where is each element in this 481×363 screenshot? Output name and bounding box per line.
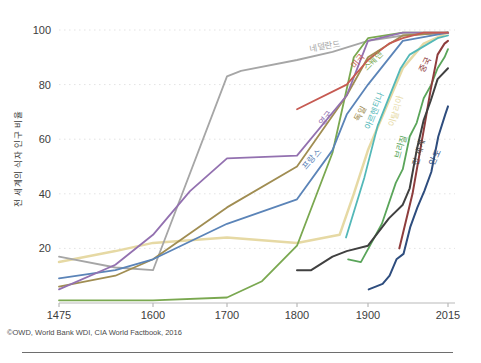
literacy-chart-figure: 20406080100147516001700180019002015이탈리아네… bbox=[0, 0, 481, 363]
y-tick-label-40: 40 bbox=[39, 188, 51, 200]
series-line-india bbox=[369, 106, 448, 289]
x-tick-label-2015: 2015 bbox=[436, 309, 460, 321]
y-tick-label-80: 80 bbox=[39, 79, 51, 91]
literacy-line-chart: 20406080100147516001700180019002015이탈리아네… bbox=[0, 0, 481, 363]
y-tick-label-20: 20 bbox=[39, 242, 51, 254]
y-tick-label-100: 100 bbox=[33, 24, 51, 36]
x-tick-label-1600: 1600 bbox=[141, 309, 165, 321]
series-label-china: 중국 bbox=[417, 55, 433, 74]
series-label-world: 전 세계 bbox=[410, 138, 426, 166]
series-line-sweden bbox=[59, 33, 448, 301]
bottom-divider-rule bbox=[22, 352, 453, 353]
series-line-italy bbox=[59, 33, 448, 262]
series-line-france bbox=[59, 33, 448, 279]
series-label-netherlands: 네덜란드 bbox=[308, 38, 341, 53]
x-tick-label-1800: 1800 bbox=[285, 309, 309, 321]
x-tick-label-1700: 1700 bbox=[215, 309, 239, 321]
y-tick-label-60: 60 bbox=[39, 133, 51, 145]
series-label-uk: 영국 bbox=[316, 109, 334, 128]
y-axis-title: 전 세계의 식자 인구 비율 bbox=[11, 104, 25, 214]
x-tick-label-1475: 1475 bbox=[47, 309, 71, 321]
source-note: ©OWD, World Bank WDI, CIA World Factbook… bbox=[7, 328, 182, 337]
x-tick-label-1900: 1900 bbox=[356, 309, 380, 321]
series-label-india: 인도 bbox=[427, 148, 443, 167]
series-line-netherlands bbox=[59, 33, 448, 271]
